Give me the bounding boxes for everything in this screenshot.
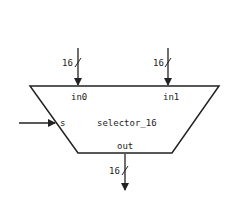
s-label: s	[60, 118, 65, 128]
port-in0: 16 in0	[62, 48, 87, 102]
port-out: out 16	[109, 141, 133, 190]
in1-label: in1	[163, 92, 179, 102]
out-width-label: 16	[109, 166, 120, 176]
selector-diagram: 16 in0 16 in1 s selector_16 out 16	[0, 0, 232, 206]
in0-label: in0	[71, 92, 87, 102]
block-name: selector_16	[97, 118, 157, 128]
out-label: out	[117, 141, 133, 151]
in1-width-label: 16	[153, 58, 164, 68]
port-in1: 16 in1	[153, 48, 179, 102]
in0-width-label: 16	[62, 58, 73, 68]
